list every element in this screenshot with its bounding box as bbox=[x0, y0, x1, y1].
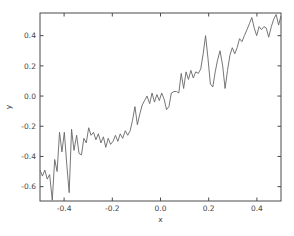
x-tick-label: 0.0 bbox=[155, 204, 167, 213]
axes-spines bbox=[40, 13, 281, 201]
tick-marks-group bbox=[40, 13, 281, 201]
figure: -0.4-0.20.00.20.4-0.6-0.4-0.20.00.20.4 x… bbox=[0, 0, 294, 236]
y-axis-label: y bbox=[4, 104, 13, 109]
y-tick-label: 0.4 bbox=[24, 31, 36, 40]
x-tick-label: 0.2 bbox=[203, 204, 215, 213]
x-axis-label: x bbox=[158, 215, 163, 224]
x-tick-label: 0.4 bbox=[251, 204, 263, 213]
y-tick-label: -0.2 bbox=[21, 122, 36, 131]
plot-canvas: -0.4-0.20.00.20.4-0.6-0.4-0.20.00.20.4 x… bbox=[0, 0, 294, 236]
x-tick-label: -0.2 bbox=[105, 204, 120, 213]
y-tick-label: -0.6 bbox=[21, 182, 36, 191]
data-series-group bbox=[40, 15, 281, 201]
y-tick-label: 0.0 bbox=[24, 92, 36, 101]
x-tick-label: -0.4 bbox=[57, 204, 72, 213]
y-tick-label: -0.4 bbox=[21, 152, 36, 161]
data-series-line bbox=[40, 15, 281, 201]
y-tick-label: 0.2 bbox=[24, 62, 36, 71]
tick-labels-group: -0.4-0.20.00.20.4-0.6-0.4-0.20.00.20.4 bbox=[21, 31, 263, 213]
